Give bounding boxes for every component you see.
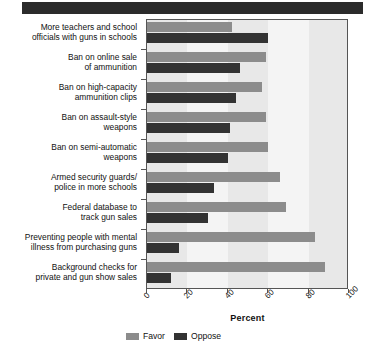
bar-oppose (147, 273, 171, 283)
category-label-line: Ban on semi-automatic (0, 142, 137, 152)
x-axis-tick-label: 20 (182, 288, 195, 301)
category-label: Ban on high-capacityammunition clips (0, 82, 137, 102)
legend-swatch-icon (126, 333, 139, 340)
category-label-line: More teachers and school (0, 22, 137, 32)
plot-area (146, 19, 348, 289)
category-label-line: Ban on online sale (0, 52, 137, 62)
header-band (22, 2, 363, 14)
bar-oppose (147, 183, 214, 193)
category-label-line: weapons (0, 122, 137, 132)
category-label: Federal database totrack gun sales (0, 202, 137, 222)
x-axis-title: Percent (0, 313, 369, 323)
x-axis-title-text: Percent (230, 313, 264, 323)
legend-label: Oppose (191, 331, 221, 341)
bar-favor (147, 142, 268, 152)
bar-favor (147, 52, 266, 62)
bar-oppose (147, 243, 179, 253)
bar-oppose (147, 213, 208, 223)
category-label: More teachers and schoolofficials with g… (0, 22, 137, 42)
category-label-line: Federal database to (0, 202, 137, 212)
bar-favor (147, 22, 232, 32)
category-label-line: ammunition clips (0, 92, 137, 102)
category-label-line: private and gun show sales (0, 272, 137, 282)
legend-swatch-icon (174, 333, 187, 340)
bar-oppose (147, 153, 228, 163)
y-axis-tick (141, 49, 147, 50)
legend-label: Favor (143, 331, 165, 341)
bar-oppose (147, 93, 236, 103)
category-label-line: track gun sales (0, 212, 137, 222)
category-label: Preventing people with mentalillness fro… (0, 232, 137, 252)
y-axis-tick (141, 259, 147, 260)
bar-oppose (147, 63, 240, 73)
bar-oppose (147, 123, 230, 133)
y-axis-tick (141, 109, 147, 110)
category-label: Ban on assault-styleweapons (0, 112, 137, 132)
category-axis-labels: More teachers and schoolofficials with g… (0, 19, 143, 289)
bar-favor (147, 112, 266, 122)
x-axis-tick-label: 60 (263, 288, 276, 301)
category-label-line: Background checks for (0, 262, 137, 272)
category-label-line: Armed security guards/ (0, 172, 137, 182)
category-label-line: Preventing people with mental (0, 232, 137, 242)
bar-favor (147, 172, 280, 182)
bar-favor (147, 232, 315, 242)
legend-item-oppose[interactable]: Oppose (174, 331, 221, 341)
category-label-line: illness from purchasing guns (0, 242, 137, 252)
y-axis-tick (141, 139, 147, 140)
x-axis-tick-label: 80 (304, 288, 317, 301)
y-axis-tick (141, 79, 147, 80)
bar-rows (147, 20, 347, 288)
bar-favor (147, 202, 286, 212)
category-label-line: of ammunition (0, 62, 137, 72)
x-axis-tick-label: 0 (142, 291, 152, 301)
bar-favor (147, 262, 325, 272)
bar-oppose (147, 33, 268, 43)
category-label-line: officials with guns in schools (0, 32, 137, 42)
legend-item-favor[interactable]: Favor (126, 331, 165, 341)
category-label-line: police in more schools (0, 182, 137, 192)
category-label: Background checks forprivate and gun sho… (0, 262, 137, 282)
y-axis-tick (141, 169, 147, 170)
category-label: Ban on online saleof ammunition (0, 52, 137, 72)
y-axis-tick (141, 199, 147, 200)
y-axis-tick (141, 229, 147, 230)
category-label: Armed security guards/police in more sch… (0, 172, 137, 192)
chart-legend: FavorOppose (0, 331, 369, 341)
category-label-line: Ban on high-capacity (0, 82, 137, 92)
category-label: Ban on semi-automaticweapons (0, 142, 137, 162)
bar-favor (147, 82, 262, 92)
chart-figure: More teachers and schoolofficials with g… (0, 0, 369, 350)
category-label-line: weapons (0, 152, 137, 162)
x-axis-tick-label: 40 (223, 288, 236, 301)
category-label-line: Ban on assault-style (0, 112, 137, 122)
